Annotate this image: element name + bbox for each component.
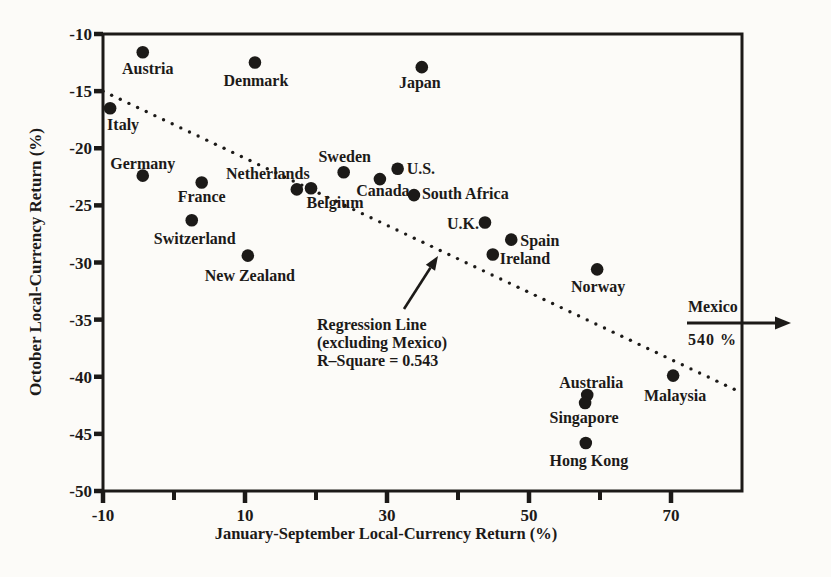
country-label-new-zealand: New Zealand xyxy=(205,267,295,284)
country-label-spain: Spain xyxy=(520,232,559,250)
regression-dotted-line-dot xyxy=(724,384,727,387)
regression-dotted-line-dot xyxy=(542,298,545,301)
regression-note-arrow-shaft xyxy=(404,268,430,309)
regression-dotted-line-dot xyxy=(395,228,398,231)
regression-dotted-line-dot xyxy=(153,114,156,117)
regression-dotted-line-dot xyxy=(482,269,485,272)
regression-dotted-line-dot xyxy=(447,253,450,256)
regression-dotted-line-dot xyxy=(240,155,243,158)
data-point-ireland xyxy=(486,248,499,261)
regression-dotted-line-dot xyxy=(361,212,364,215)
data-point-japan xyxy=(415,61,428,74)
regression-note-line-2: (excluding Mexico) xyxy=(317,334,447,352)
x-axis-tick-label: 10 xyxy=(237,506,254,525)
regression-dotted-line-dot xyxy=(646,347,649,350)
regression-dotted-line-dot xyxy=(110,94,113,97)
regression-dotted-line-dot xyxy=(637,343,640,346)
data-point-belgium xyxy=(305,182,318,195)
y-axis-title: October Local-Currency Return (%) xyxy=(26,128,46,396)
regression-dotted-line-dot xyxy=(179,126,182,129)
regression-dotted-line-dot xyxy=(681,363,684,366)
country-label-malaysia: Malaysia xyxy=(644,387,706,405)
regression-dotted-line-dot xyxy=(594,322,597,325)
regression-dotted-line-dot xyxy=(473,265,476,268)
regression-dotted-line-dot xyxy=(732,388,735,391)
country-label-south-africa: South Africa xyxy=(422,185,509,202)
country-label-singapore: Singapore xyxy=(550,409,619,427)
regression-dotted-line-dot xyxy=(577,314,580,317)
regression-note-line-3: R–Square = 0.543 xyxy=(317,352,447,370)
regression-dotted-line-dot xyxy=(136,106,139,109)
regression-dotted-line-dot xyxy=(516,285,519,288)
regression-dotted-line-dot xyxy=(421,241,424,244)
country-label-japan: Japan xyxy=(399,74,441,92)
regression-dotted-line-dot xyxy=(119,98,122,101)
regression-dotted-line-dot xyxy=(560,306,563,309)
plot-border xyxy=(103,34,742,491)
regression-dotted-line-dot xyxy=(464,261,467,264)
y-axis-tick-label: -35 xyxy=(69,311,92,330)
regression-dotted-line-dot xyxy=(430,245,433,248)
regression-dotted-line-dot xyxy=(369,216,372,219)
regression-dotted-line-dot xyxy=(214,143,217,146)
regression-dotted-line-dot xyxy=(525,290,528,293)
country-label-u-s: U.S. xyxy=(407,160,435,177)
country-label-italy: Italy xyxy=(107,116,139,134)
country-label-norway: Norway xyxy=(571,278,625,296)
data-point-new-zealand xyxy=(242,249,255,262)
regression-dotted-line-dot xyxy=(439,249,442,252)
regression-dotted-line-dot xyxy=(378,220,381,223)
data-point-switzerland xyxy=(185,214,198,227)
regression-dotted-line-dot xyxy=(715,379,718,382)
regression-dotted-line-dot xyxy=(499,277,502,280)
data-point-italy xyxy=(104,102,117,115)
data-point-singapore xyxy=(579,397,592,410)
regression-dotted-line-dot xyxy=(586,318,589,321)
data-point-netherlands xyxy=(291,183,304,196)
y-axis-tick-label: -15 xyxy=(69,82,92,101)
regression-dotted-line-dot xyxy=(162,118,165,121)
regression-dotted-line-dot xyxy=(231,151,234,154)
x-axis-tick-label: 50 xyxy=(521,506,538,525)
data-point-hong-kong xyxy=(580,437,593,450)
y-axis-tick-label: -45 xyxy=(69,425,92,444)
regression-dotted-line-dot xyxy=(672,359,675,362)
country-label-australia: Australia xyxy=(559,374,623,391)
mexico-arrow-head xyxy=(775,317,791,330)
x-axis-title: January-September Local-Currency Return … xyxy=(215,524,558,544)
regression-dotted-line-dot xyxy=(568,310,571,313)
regression-dotted-line-dot xyxy=(603,326,606,329)
country-label-denmark: Denmark xyxy=(223,72,288,89)
y-axis-tick-label: -10 xyxy=(69,25,92,44)
regression-dotted-line-dot xyxy=(127,102,130,105)
data-point-south-africa xyxy=(408,189,421,202)
x-axis-tick-label: 30 xyxy=(379,506,396,525)
regression-dotted-line-dot xyxy=(387,224,390,227)
regression-dotted-line-dot xyxy=(170,122,173,125)
regression-dotted-line-dot xyxy=(698,371,701,374)
x-axis-tick-label: -10 xyxy=(92,506,115,525)
y-axis-tick-label: -50 xyxy=(69,482,92,501)
regression-dotted-line-dot xyxy=(551,302,554,305)
data-point-sweden xyxy=(337,166,350,179)
y-axis-tick-label: -20 xyxy=(69,139,92,158)
regression-dotted-line-dot xyxy=(248,159,251,162)
regression-dotted-line-dot xyxy=(689,367,692,370)
data-point-norway xyxy=(591,263,604,276)
country-label-u-k: U.K. xyxy=(447,215,479,232)
data-point-austria xyxy=(136,46,149,59)
country-label-germany: Germany xyxy=(110,155,175,173)
data-point-spain xyxy=(505,233,518,246)
regression-dotted-line-dot xyxy=(611,330,614,333)
regression-dotted-line-dot xyxy=(663,355,666,358)
regression-dotted-line-dot xyxy=(534,294,537,297)
regression-dotted-line-dot xyxy=(413,236,416,239)
regression-dotted-line-dot xyxy=(404,232,407,235)
data-point-u-s xyxy=(391,163,404,176)
regression-dotted-line-dot xyxy=(620,335,623,338)
country-label-netherlands: Netherlands xyxy=(226,165,310,182)
country-label-france: France xyxy=(178,188,226,205)
regression-dotted-line-dot xyxy=(629,339,632,342)
country-label-hong-kong: Hong Kong xyxy=(549,452,628,470)
regression-dotted-line-dot xyxy=(490,273,493,276)
